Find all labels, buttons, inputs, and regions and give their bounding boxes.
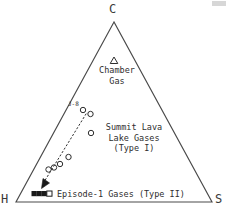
episode1-gases-label: Episode-1 Gases (Type II) bbox=[57, 189, 185, 200]
chamber-gas-label-line2: Gas bbox=[88, 76, 146, 87]
summit-lava-label-line2: Lake Gases bbox=[98, 133, 170, 144]
data-point-circle bbox=[66, 154, 71, 159]
summit-lava-lake-gas-points bbox=[46, 107, 93, 172]
data-point-square bbox=[32, 191, 37, 196]
chamber-gas-label-line1: Chamber bbox=[88, 65, 146, 76]
data-point-square bbox=[47, 191, 52, 196]
summit-lava-legend-marker bbox=[88, 130, 93, 135]
data-point-square bbox=[42, 191, 47, 196]
data-point-circle bbox=[80, 107, 85, 112]
j8-sample-label: J-8 bbox=[68, 100, 79, 107]
vertex-label-s: S bbox=[215, 192, 222, 206]
summit-lava-label-line1: Summit Lava bbox=[98, 122, 170, 133]
data-point-circle bbox=[46, 167, 51, 172]
data-point-circle bbox=[88, 111, 93, 116]
ternary-diagram-figure: C H S Chamber Gas Summit Lava Lake Gases… bbox=[0, 0, 228, 215]
data-point-square bbox=[37, 191, 42, 196]
episode1-gas-points bbox=[32, 191, 53, 196]
ternary-triangle-outline bbox=[16, 22, 212, 202]
summit-lava-lake-label: Summit Lava Lake Gases (Type I) bbox=[98, 122, 170, 154]
summit-lava-label-line3: (Type I) bbox=[98, 143, 170, 154]
chamber-gas-label: Chamber Gas bbox=[88, 65, 146, 86]
trend-arrowhead bbox=[42, 179, 50, 189]
chamber-gas-marker bbox=[110, 57, 118, 64]
ternary-plot-canvas bbox=[0, 0, 228, 215]
vertex-label-h: H bbox=[1, 192, 8, 206]
vertex-label-c: C bbox=[109, 2, 116, 16]
data-point-circle bbox=[57, 161, 62, 166]
